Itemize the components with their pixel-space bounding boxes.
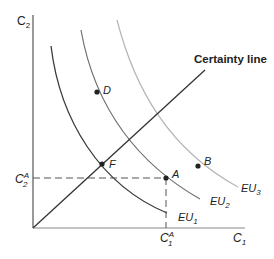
eu3-label: EU3 (241, 182, 261, 197)
point-d (94, 89, 99, 94)
y-axis-label: C2 (17, 14, 31, 30)
c2a-tick-label: CA2 (15, 171, 29, 189)
point-f-label: F (109, 158, 117, 170)
eu1-label: EU1 (178, 211, 198, 226)
eu3-curve (117, 20, 238, 187)
eu-diagram: D F A B Certainty line EU1 EU2 EU3 C2 C1… (0, 0, 274, 259)
point-d-label: D (103, 84, 111, 96)
point-b-label: B (204, 155, 211, 167)
eu1-curve (51, 46, 167, 213)
certainty-line-label: Certainty line (194, 53, 267, 65)
eu2-curve (81, 30, 200, 199)
point-b (195, 163, 200, 168)
c1a-tick-label: CA1 (160, 230, 174, 248)
point-f (99, 161, 104, 166)
certainty-line (33, 70, 205, 228)
point-a (163, 175, 168, 180)
point-a-label: A (171, 168, 179, 180)
x-axis-label: C1 (233, 231, 246, 247)
eu2-label: EU2 (210, 195, 230, 210)
